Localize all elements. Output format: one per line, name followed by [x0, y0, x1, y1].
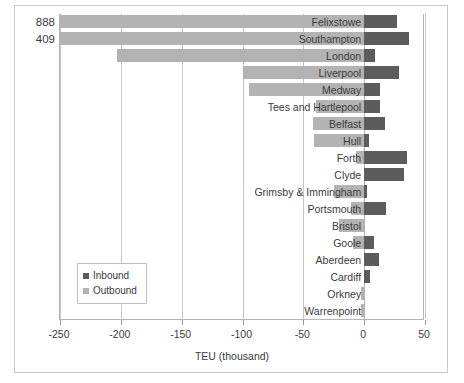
legend-label-inbound: Inbound	[93, 270, 129, 281]
category-label: Forth	[60, 150, 364, 167]
bar-inbound	[364, 134, 369, 147]
tick-mark--200	[121, 320, 122, 325]
bar-inbound	[364, 202, 386, 215]
category-label: Grimsby & Immingham	[60, 184, 364, 201]
category-label: Belfast	[60, 116, 364, 133]
tick-mark-0	[364, 320, 365, 325]
x-tick-label--50: -50	[295, 328, 310, 340]
legend-swatch-inbound-icon	[83, 273, 89, 279]
bar-inbound	[364, 32, 409, 45]
category-label: Felixstowe	[60, 14, 364, 31]
x-tick-label--200: -200	[109, 328, 130, 340]
bar-inbound	[364, 236, 374, 249]
bar-inbound	[364, 168, 404, 181]
bar-inbound	[364, 66, 399, 79]
bar-inbound	[364, 83, 380, 96]
legend-label-outbound: Outbound	[93, 285, 137, 296]
category-label: Bristol	[60, 218, 364, 235]
x-tick-label--100: -100	[231, 328, 252, 340]
category-label: Clyde	[60, 167, 364, 184]
bar-inbound	[364, 49, 375, 62]
chart-legend: Inbound Outbound	[77, 263, 147, 304]
category-label: Liverpool	[60, 65, 364, 82]
bar-inbound	[364, 117, 385, 130]
overflow-value-label: 409	[15, 31, 55, 48]
category-label: London	[60, 48, 364, 65]
tick-mark--100	[243, 320, 244, 325]
x-tick-label-50: 50	[418, 328, 430, 340]
legend-item-inbound: Inbound	[83, 268, 141, 283]
x-tick-label-0: 0	[360, 328, 366, 340]
x-tick-label--250: -250	[48, 328, 69, 340]
bar-inbound	[364, 253, 379, 266]
category-label: Portsmouth	[60, 201, 364, 218]
legend-item-outbound: Outbound	[83, 283, 141, 298]
tick-mark--150	[182, 320, 183, 325]
tick-mark--250	[60, 320, 61, 325]
category-label: Warrenpoint	[60, 303, 364, 320]
bar-inbound	[364, 100, 380, 113]
x-tick-label--150: -150	[170, 328, 191, 340]
category-label: Hull	[60, 133, 364, 150]
category-label: Southampton	[60, 31, 364, 48]
bar-inbound	[364, 15, 397, 28]
gridline-50	[425, 14, 426, 319]
chart-figure: FelixstoweSouthamptonLondonLiverpoolMedw…	[14, 5, 448, 373]
category-label: Medway	[60, 82, 364, 99]
x-axis-title: TEU (thousand)	[15, 350, 449, 362]
bar-inbound	[364, 270, 370, 283]
bar-inbound	[364, 185, 366, 198]
tick-mark-50	[425, 320, 426, 325]
tick-mark--50	[303, 320, 304, 325]
overflow-value-label: 888	[15, 14, 55, 31]
category-label: Goole	[60, 235, 364, 252]
bar-inbound	[364, 151, 407, 164]
legend-swatch-outbound-icon	[83, 288, 89, 294]
category-label: Tees and Hartlepool	[60, 99, 364, 116]
